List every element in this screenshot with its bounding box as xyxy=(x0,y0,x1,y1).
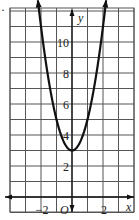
y-tick-label: 4 xyxy=(63,129,69,143)
y-axis-label: y xyxy=(77,11,84,25)
y-tick-label: 6 xyxy=(63,98,69,112)
y-axis-arrow-down-icon xyxy=(70,205,75,212)
x-tick-label: 2 xyxy=(101,203,107,217)
x-axis-arrow-right-icon xyxy=(127,195,134,200)
item-marker: · xyxy=(1,3,5,17)
x-axis-arrow-left-icon xyxy=(5,195,12,200)
parabola-graph: 246810−22Oxy · xyxy=(0,0,139,220)
y-axis-arrow-up-icon xyxy=(70,9,75,16)
origin-label: O xyxy=(60,203,69,217)
curve-arrowheads xyxy=(36,0,109,8)
y-tick-label: 8 xyxy=(63,67,69,81)
y-tick-label: 10 xyxy=(57,36,69,50)
x-axis-label: x xyxy=(125,200,132,214)
y-tick-label: 2 xyxy=(63,160,69,174)
x-tick-label: −2 xyxy=(36,203,49,217)
